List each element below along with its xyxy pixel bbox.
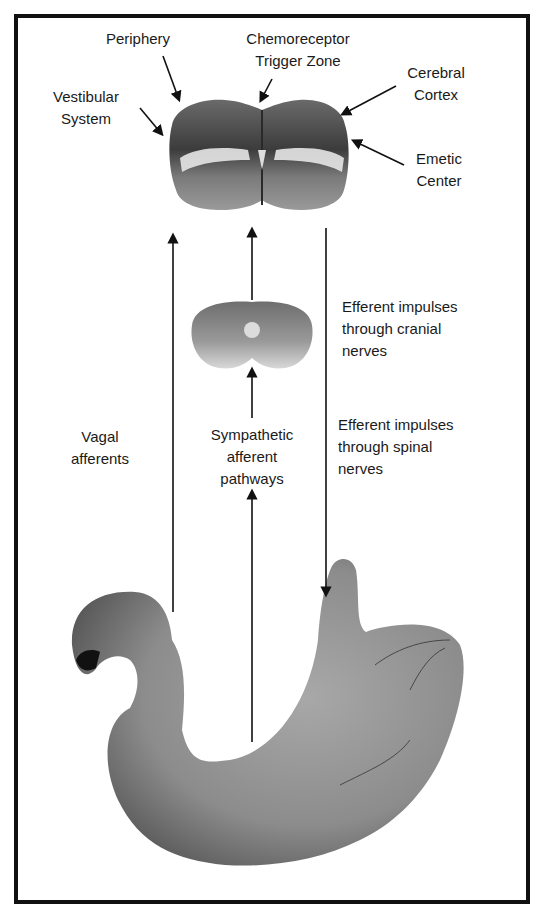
cortex-arrow bbox=[345, 86, 396, 113]
label-efferent-cranial: Efferent impulses through cranial nerves bbox=[342, 296, 502, 362]
label-periphery: Periphery bbox=[98, 28, 178, 50]
label-cerebral-cortex: Cerebral Cortex bbox=[398, 62, 474, 106]
periphery-arrow bbox=[163, 56, 178, 97]
brainstem-section bbox=[169, 100, 348, 210]
label-vestibular-system: Vestibular System bbox=[44, 86, 128, 130]
label-vagal-afferents: Vagal afferents bbox=[58, 426, 142, 470]
ctz-arrow bbox=[262, 79, 272, 98]
vestibular-arrow bbox=[140, 108, 160, 132]
emetic-arrow bbox=[356, 142, 404, 165]
label-efferent-spinal: Efferent impulses through spinal nerves bbox=[338, 414, 508, 480]
label-sympathetic-afferent: Sympathetic afferent pathways bbox=[196, 424, 308, 490]
label-chemoreceptor-trigger-zone: Chemoreceptor Trigger Zone bbox=[234, 28, 362, 72]
spinal-cord-section bbox=[191, 302, 312, 369]
label-emetic-center: Emetic Center bbox=[404, 148, 474, 192]
stomach bbox=[72, 559, 464, 866]
